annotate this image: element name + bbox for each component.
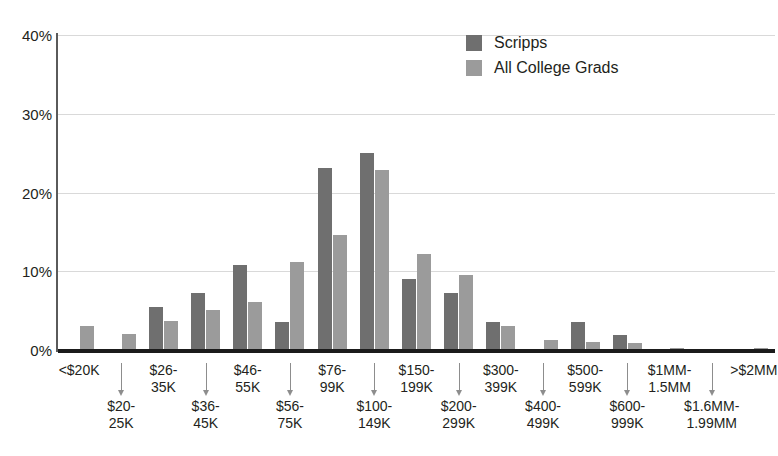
bar xyxy=(191,293,205,350)
y-axis-tick-label: 0% xyxy=(0,343,52,358)
bar xyxy=(290,262,304,350)
bar-group xyxy=(185,35,227,350)
y-axis-line xyxy=(56,33,58,352)
bar xyxy=(206,310,220,350)
legend-label: Scripps xyxy=(494,35,547,51)
chart-legend: ScrippsAll College Grads xyxy=(466,30,619,80)
bar-group xyxy=(480,35,522,350)
legend-item[interactable]: Scripps xyxy=(466,30,619,55)
x-axis-category-line: 1.99MM xyxy=(662,415,762,432)
bar-chart: 0%10%20%30%40% ScrippsAll College Grads … xyxy=(0,0,778,456)
bar-group xyxy=(269,35,311,350)
bar xyxy=(486,322,500,350)
x-axis-category-line: $1.6MM- xyxy=(662,398,762,415)
bar xyxy=(318,168,332,350)
y-axis-tick-label: 40% xyxy=(0,28,52,43)
bar xyxy=(275,322,289,350)
bar-group xyxy=(648,35,690,350)
legend-swatch-icon xyxy=(466,60,482,76)
x-axis-category-label: $1.6MM-1.99MM xyxy=(662,398,762,432)
bar-group xyxy=(606,35,648,350)
legend-item[interactable]: All College Grads xyxy=(466,55,619,80)
bar xyxy=(248,302,262,350)
bar-group xyxy=(311,35,353,350)
y-axis-labels: 0%10%20%30%40% xyxy=(0,0,52,456)
bar-group xyxy=(100,35,142,350)
x-axis-category-line: >$2MM xyxy=(704,362,778,379)
x-axis-category-line: 1.5MM xyxy=(620,379,720,396)
bar xyxy=(375,170,389,350)
bar xyxy=(613,335,627,350)
bar-group xyxy=(522,35,564,350)
bar xyxy=(571,322,585,350)
bar-group xyxy=(438,35,480,350)
legend-label: All College Grads xyxy=(494,60,619,76)
bar-group xyxy=(733,35,775,350)
bar-group xyxy=(564,35,606,350)
bar-group xyxy=(691,35,733,350)
bar-group xyxy=(142,35,184,350)
bar xyxy=(444,293,458,350)
bar xyxy=(417,254,431,350)
bar xyxy=(501,326,515,350)
legend-swatch-icon xyxy=(466,35,482,51)
y-axis-tick-label: 10% xyxy=(0,264,52,279)
bar xyxy=(360,153,374,350)
bar-group xyxy=(58,35,100,350)
bar xyxy=(149,307,163,350)
bar-group xyxy=(353,35,395,350)
y-axis-tick-label: 30% xyxy=(0,107,52,122)
bar xyxy=(80,326,94,350)
bar xyxy=(233,265,247,350)
x-axis-line xyxy=(58,349,775,353)
y-axis-tick-label: 20% xyxy=(0,186,52,201)
plot-area xyxy=(58,35,775,350)
bar xyxy=(122,334,136,350)
bar xyxy=(459,275,473,350)
bar xyxy=(402,279,416,350)
bar xyxy=(333,235,347,350)
x-axis-category-label: >$2MM xyxy=(704,362,778,379)
bar xyxy=(164,321,178,350)
bar-group xyxy=(227,35,269,350)
bar-group xyxy=(395,35,437,350)
